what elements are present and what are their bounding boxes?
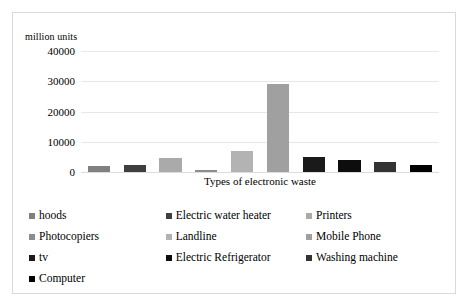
- bar-tv[interactable]: [303, 157, 325, 172]
- legend-swatch-icon: [306, 255, 312, 261]
- y-tick-label-0: 0: [70, 167, 76, 178]
- y-tick-label-20000: 20000: [48, 106, 76, 117]
- legend-swatch-icon: [166, 255, 172, 261]
- legend-row: PhotocopiersLandlineMobile Phone: [29, 226, 441, 247]
- bars-group: [81, 51, 439, 172]
- y-tick-label-10000: 10000: [48, 136, 76, 147]
- legend-label: Printers: [316, 210, 352, 222]
- bar-mobile-phone[interactable]: [267, 84, 289, 172]
- legend-item-photocopiers[interactable]: Photocopiers: [29, 231, 166, 243]
- legend-item-computer[interactable]: Computer: [29, 273, 181, 285]
- legend-swatch-icon: [29, 234, 35, 240]
- chart-legend: hoodsElectric water heaterPrintersPhotoc…: [29, 205, 441, 289]
- bar-electric-refrigerator[interactable]: [338, 160, 360, 172]
- y-axis-tick-labels: 400003000020000100000: [29, 51, 75, 172]
- x-axis-title: Types of electronic waste: [81, 175, 439, 187]
- legend-swatch-icon: [166, 234, 172, 240]
- legend-swatch-icon: [306, 234, 312, 240]
- y-tick-label-30000: 30000: [48, 76, 76, 87]
- gridline-0: [81, 172, 439, 173]
- legend-item-washing-machine[interactable]: Washing machine: [306, 252, 441, 264]
- bar-washing-machine[interactable]: [374, 162, 396, 172]
- legend-item-printers[interactable]: Printers: [306, 210, 441, 222]
- legend-label: Washing machine: [316, 252, 398, 264]
- y-tick-label-40000: 40000: [48, 46, 76, 57]
- legend-label: Landline: [176, 231, 217, 243]
- legend-label: Photocopiers: [39, 231, 99, 243]
- legend-item-mobile-phone[interactable]: Mobile Phone: [306, 231, 441, 243]
- legend-item-tv[interactable]: tv: [29, 252, 166, 264]
- legend-label: Mobile Phone: [316, 231, 381, 243]
- legend-swatch-icon: [306, 213, 312, 219]
- legend-label: tv: [39, 252, 48, 264]
- legend-row: hoodsElectric water heaterPrinters: [29, 205, 441, 226]
- bar-computer[interactable]: [410, 165, 432, 172]
- bar-printers[interactable]: [159, 158, 181, 172]
- bar-photocopiers[interactable]: [195, 170, 217, 172]
- y-axis-title: million units: [25, 31, 77, 42]
- legend-label: Electric water heater: [176, 210, 271, 222]
- legend-item-landline[interactable]: Landline: [166, 231, 306, 243]
- legend-swatch-icon: [29, 276, 35, 282]
- bar-electric-water-heater[interactable]: [124, 165, 146, 172]
- legend-swatch-icon: [166, 213, 172, 219]
- legend-row: Computer: [29, 268, 441, 289]
- bar-landline[interactable]: [231, 151, 253, 172]
- chart-figure: million units 400003000020000100000 Type…: [12, 12, 456, 294]
- legend-swatch-icon: [29, 255, 35, 261]
- legend-item-electric-water-heater[interactable]: Electric water heater: [166, 210, 306, 222]
- legend-item-electric-refrigerator[interactable]: Electric Refrigerator: [166, 252, 306, 264]
- bar-hoods[interactable]: [88, 166, 110, 172]
- plot-area: [81, 51, 439, 172]
- legend-swatch-icon: [29, 213, 35, 219]
- legend-label: Electric Refrigerator: [176, 252, 271, 264]
- legend-label: hoods: [39, 210, 66, 222]
- legend-item-hoods[interactable]: hoods: [29, 210, 166, 222]
- legend-row: tvElectric RefrigeratorWashing machine: [29, 247, 441, 268]
- legend-label: Computer: [39, 273, 85, 285]
